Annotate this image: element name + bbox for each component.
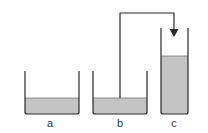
label-a: a [47, 117, 54, 129]
label-c: c [171, 117, 177, 129]
label-b: b [117, 117, 123, 129]
siphon-diagram: a b c [0, 0, 208, 133]
liquid-a [25, 98, 79, 114]
arrow-down-icon [170, 29, 179, 37]
container-c [161, 28, 188, 114]
liquid-c [161, 56, 188, 114]
liquid-b [93, 98, 147, 114]
container-a [25, 71, 79, 114]
